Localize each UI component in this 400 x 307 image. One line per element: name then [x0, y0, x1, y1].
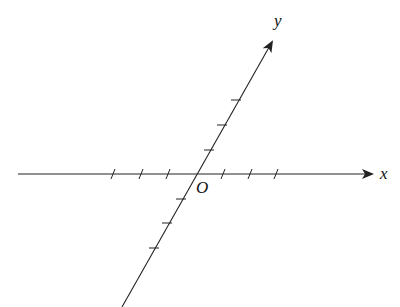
y-axis-label: y: [274, 12, 282, 29]
oblique-coordinate-diagram: x y O: [0, 0, 400, 307]
x-axis-label: x: [380, 165, 388, 182]
origin-label: O: [196, 179, 208, 196]
axes-graphic: [0, 0, 400, 307]
